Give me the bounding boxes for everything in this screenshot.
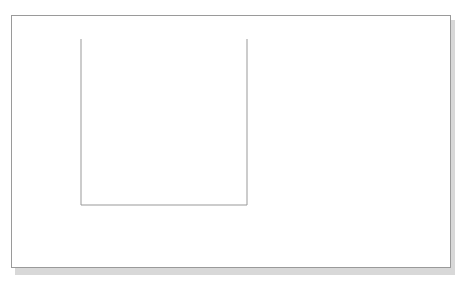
chart: [0, 0, 468, 289]
